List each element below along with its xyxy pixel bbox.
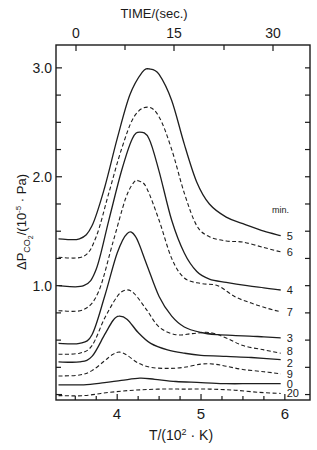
series-label-3: 3 [287,332,293,344]
top-axis-tick-label: 15 [166,25,182,41]
series-curve-2 [59,316,281,362]
series-curve-4 [59,132,281,290]
series-label-20: 20 [287,387,299,399]
x-tick-label: 5 [197,405,205,422]
top-axis-tick-label: 30 [265,25,281,41]
y-axis-label: ΔPCO2/(10-5 · Pa) [14,174,34,270]
x-axis-label: T/(102 · K) [149,427,213,443]
top-axis-title: TIME/(sec.) [120,6,187,21]
y-tick-label: 2.0 [33,169,53,185]
x-tick-label: 4 [113,405,121,422]
series-label-8: 8 [287,345,293,357]
series-curve-3 [59,232,281,344]
series-curve-20 [59,389,281,396]
svg-text:ΔPCO2/(10-5 · Pa): ΔPCO2/(10-5 · Pa) [14,174,34,270]
top-axis-tick-label: 0 [72,25,80,41]
x-tick-label: 6 [281,405,289,422]
series-labels: 56473829020 [287,230,299,400]
y-tick-label: 1.0 [33,278,53,294]
y-tick-label: 3.0 [33,60,53,76]
series-label-5: 5 [287,230,293,242]
series-curve-8 [59,290,281,354]
series-label-7: 7 [287,306,293,318]
series-curve-6 [59,107,281,258]
series-label-4: 4 [287,284,293,296]
data-series [59,69,281,396]
legend-title: min. [272,205,289,215]
series-curve-0 [59,378,281,385]
chart-figure: TIME/(sec.) 0 15 30 3.0 2.0 1.0 ΔPCO2/(1… [0,0,317,450]
series-label-6: 6 [287,246,293,258]
